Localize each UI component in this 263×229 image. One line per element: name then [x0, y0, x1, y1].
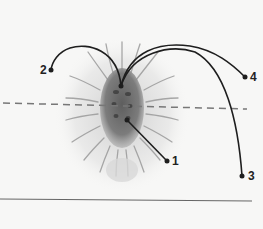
dot-4: [243, 75, 248, 80]
label-1: 1: [172, 155, 179, 167]
label-2: 2: [40, 64, 47, 76]
dot-2: [49, 68, 54, 73]
dot-origin-upper: [119, 84, 124, 89]
bottom-rule: [0, 199, 252, 201]
label-4: 4: [250, 71, 257, 83]
dot-origin-lower: [125, 118, 130, 123]
diagram-canvas: 1 2 3 4: [0, 0, 263, 229]
dot-3: [240, 174, 245, 179]
diagram-figure: [0, 0, 263, 229]
label-3: 3: [248, 170, 255, 182]
specimen-tail: [106, 158, 138, 182]
dot-1: [165, 159, 170, 164]
